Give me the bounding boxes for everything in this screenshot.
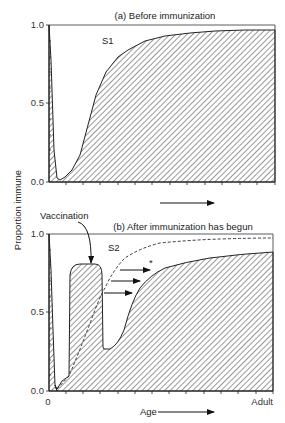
panel-a-immune-area — [49, 25, 275, 182]
x-axis-label: Age — [140, 406, 157, 417]
panel-a-ytick-1: 1.0 — [31, 19, 44, 30]
panel-a: (a) Before immunization S1 1.0 0.5 0.0 — [31, 10, 275, 203]
panel-b-ytick-0: 0.0 — [31, 385, 44, 396]
asterisk-mark: * — [149, 257, 153, 268]
y-axis-label: Proportion immune — [12, 170, 23, 250]
panel-b-xtick-end: Adult — [251, 396, 273, 407]
panel-b-immune-area — [55, 252, 273, 391]
vaccination-label: Vaccination — [40, 210, 88, 221]
vaccination-arrow-icon — [78, 222, 91, 263]
panel-b-maternal-area — [49, 234, 57, 391]
panel-a-curve-label: S1 — [102, 35, 114, 46]
panel-b-title: (b) After immunization has begun — [113, 221, 252, 232]
panel-a-ytick-05: 0.5 — [31, 97, 44, 108]
figure: Proportion immune (a) Before immunizatio… — [0, 0, 285, 423]
panel-a-title: (a) Before immunization — [115, 10, 216, 21]
panel-b: (b) After immunization has begun * Vacci… — [31, 210, 274, 417]
panel-b-ytick-1: 1.0 — [31, 228, 44, 239]
panel-b-xtick-start: 0 — [45, 396, 50, 407]
panel-a-ytick-0: 0.0 — [31, 176, 44, 187]
panel-b-curve-label: S2 — [108, 242, 120, 253]
panel-b-ytick-05: 0.5 — [31, 306, 44, 317]
